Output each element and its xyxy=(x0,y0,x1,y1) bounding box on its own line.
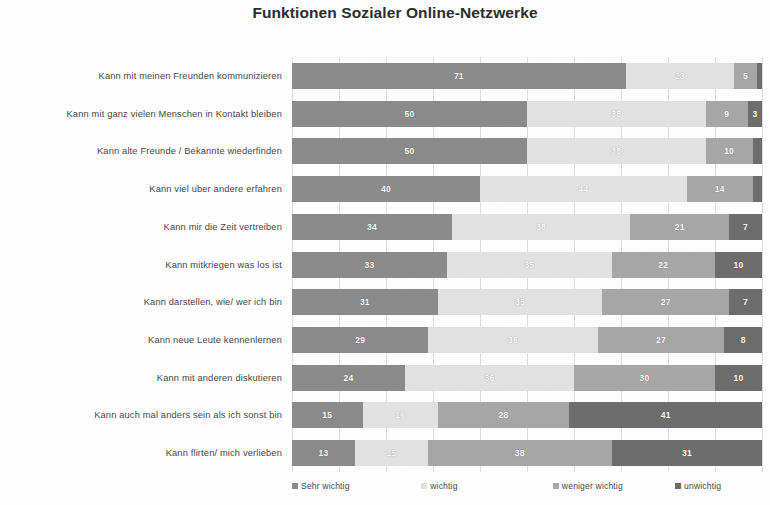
bar-value-label: 24 xyxy=(343,373,353,383)
bar-row: 33352210 xyxy=(292,252,762,278)
category-label: Kann mit meinen Freunden kommunizieren xyxy=(99,71,282,81)
bar-value-label: 50 xyxy=(405,146,415,156)
bar-segment xyxy=(753,176,762,202)
bar-segment: 8 xyxy=(724,327,762,353)
bar-value-label: 27 xyxy=(656,335,666,345)
bar-value-label: 13 xyxy=(319,448,329,458)
legend-swatch-icon xyxy=(292,483,298,489)
bar-value-label: 50 xyxy=(405,109,415,119)
bar-segment: 13 xyxy=(292,440,355,466)
bar-segment: 5 xyxy=(734,63,758,89)
legend-item[interactable]: unwichtig xyxy=(675,481,721,491)
bar-value-label: 10 xyxy=(734,373,744,383)
bar-value-label: 36 xyxy=(508,335,518,345)
bar-value-label: 36 xyxy=(484,373,494,383)
bar-value-label: 7 xyxy=(743,222,748,232)
bar-row: 15162841 xyxy=(292,402,762,428)
legend-label: unwichtig xyxy=(684,481,721,491)
bar-value-label: 10 xyxy=(724,146,734,156)
bar-value-label: 41 xyxy=(661,410,671,420)
bar-value-label: 27 xyxy=(661,297,671,307)
bar-row: 3438217 xyxy=(292,214,762,240)
category-label: Kann mit anderen diskutieren xyxy=(157,373,282,383)
bar-row: 503810 xyxy=(292,138,762,164)
bar-segment: 31 xyxy=(292,289,438,315)
category-label: Kann auch mal anders sein als ich sonst … xyxy=(94,410,282,420)
legend-swatch-icon xyxy=(675,483,681,489)
gridline-100 xyxy=(762,57,763,472)
bar-segment: 10 xyxy=(715,365,762,391)
bar-segment: 36 xyxy=(428,327,597,353)
bar-value-label: 38 xyxy=(611,109,621,119)
bar-segment: 30 xyxy=(574,365,715,391)
bar-value-label: 33 xyxy=(365,260,375,270)
bar-segment: 23 xyxy=(626,63,734,89)
category-label: Kann darstellen, wie/ wer ich bin xyxy=(144,297,282,307)
bar-segment xyxy=(757,63,762,89)
chart-legend: Sehr wichtigwichtigweniger wichtigunwich… xyxy=(292,481,762,499)
bar-row: 13153831 xyxy=(292,440,762,466)
category-label: Kann mir die Zeit vertreiben xyxy=(164,222,282,232)
bar-value-label: 35 xyxy=(524,260,534,270)
bar-value-label: 29 xyxy=(355,335,365,345)
legend-swatch-icon xyxy=(553,483,559,489)
bar-value-label: 22 xyxy=(658,260,668,270)
legend-item[interactable]: Sehr wichtig xyxy=(292,481,350,491)
category-label: Kann neue Leute kennenlernen xyxy=(148,335,282,345)
bar-row: 503893 xyxy=(292,101,762,127)
bar-value-label: 15 xyxy=(386,448,396,458)
bar-value-label: 16 xyxy=(395,410,405,420)
bar-value-label: 38 xyxy=(515,448,525,458)
bar-segment: 40 xyxy=(292,176,480,202)
bar-segment: 27 xyxy=(598,327,725,353)
category-label: Kann mitkriegen was los ist xyxy=(165,260,282,270)
bar-segment: 3 xyxy=(748,101,762,127)
bar-segment: 38 xyxy=(527,101,706,127)
category-label: Kann mit ganz vielen Menschen in Kontakt… xyxy=(67,109,282,119)
bar-row: 3135277 xyxy=(292,289,762,315)
bar-segment: 36 xyxy=(405,365,574,391)
bar-value-label: 34 xyxy=(367,222,377,232)
legend-label: weniger wichtig xyxy=(562,481,623,491)
bar-row: 2936278 xyxy=(292,327,762,353)
bar-segment: 10 xyxy=(715,252,762,278)
bar-value-label: 30 xyxy=(640,373,650,383)
bar-value-label: 38 xyxy=(536,222,546,232)
bar-value-label: 15 xyxy=(322,410,332,420)
bar-segment xyxy=(753,138,762,164)
bar-segment: 41 xyxy=(569,402,762,428)
bar-value-label: 40 xyxy=(381,184,391,194)
bar-segment: 21 xyxy=(630,214,729,240)
bar-segment: 27 xyxy=(602,289,729,315)
category-label: Kann viel uber andere erfahren xyxy=(149,184,282,194)
bar-segment: 24 xyxy=(292,365,405,391)
bar-row: 404414 xyxy=(292,176,762,202)
bar-segment: 35 xyxy=(447,252,612,278)
bar-segment: 7 xyxy=(729,289,762,315)
bar-segment: 50 xyxy=(292,101,527,127)
bar-segment: 14 xyxy=(687,176,753,202)
bar-segment: 29 xyxy=(292,327,428,353)
bar-value-label: 71 xyxy=(454,71,464,81)
bar-segment: 38 xyxy=(452,214,631,240)
bar-value-label: 28 xyxy=(499,410,509,420)
legend-label: wichtig xyxy=(430,481,457,491)
bar-segment: 16 xyxy=(363,402,438,428)
bar-segment: 9 xyxy=(706,101,748,127)
bar-value-label: 21 xyxy=(675,222,685,232)
legend-item[interactable]: weniger wichtig xyxy=(553,481,623,491)
bar-segment: 71 xyxy=(292,63,626,89)
bar-value-label: 10 xyxy=(734,260,744,270)
legend-label: Sehr wichtig xyxy=(301,481,350,491)
bar-segment: 38 xyxy=(527,138,706,164)
bar-segment: 22 xyxy=(612,252,715,278)
bar-value-label: 9 xyxy=(724,109,729,119)
bar-value-label: 14 xyxy=(715,184,725,194)
bar-segment: 38 xyxy=(428,440,612,466)
bar-value-label: 7 xyxy=(743,297,748,307)
legend-item[interactable]: wichtig xyxy=(421,481,457,491)
bar-segment: 28 xyxy=(438,402,570,428)
bar-value-label: 38 xyxy=(611,146,621,156)
bar-rows: 7123550389350381040441434382173335221031… xyxy=(292,57,762,472)
bar-segment: 35 xyxy=(438,289,603,315)
